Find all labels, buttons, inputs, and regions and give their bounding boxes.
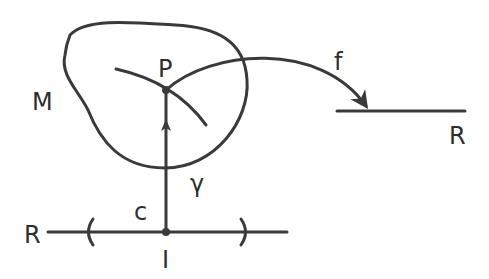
interval-point-dot: [162, 228, 170, 236]
label-c: c: [134, 198, 147, 226]
manifold-curve-diagram: M P f R R γ c I: [0, 0, 489, 279]
manifold-region: [64, 22, 247, 168]
label-r-target: R: [449, 122, 466, 150]
label-f: f: [334, 48, 343, 76]
label-i: I: [162, 246, 169, 274]
point-p-dot: [162, 86, 170, 94]
label-r-source: R: [24, 221, 41, 249]
label-m: M: [32, 88, 53, 116]
label-p: P: [158, 55, 172, 83]
label-gamma: γ: [190, 170, 204, 198]
